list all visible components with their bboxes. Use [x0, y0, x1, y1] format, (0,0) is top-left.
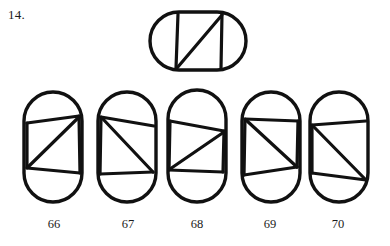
option-choice-69[interactable]	[239, 88, 305, 206]
option-choice-68[interactable]	[164, 88, 230, 206]
option-choice-66[interactable]	[21, 88, 87, 206]
option-choice-67[interactable]	[95, 88, 161, 206]
option-label-66: 66	[32, 218, 76, 231]
target-figure-region	[146, 9, 250, 73]
option-label-67: 67	[106, 218, 150, 231]
option-label-69: 69	[248, 218, 292, 231]
option-choice-70[interactable]	[306, 88, 372, 206]
option-label-68: 68	[175, 218, 219, 231]
option-labels-row: 66 67 68 69 70	[0, 218, 390, 240]
question-sheet: 14. 66 67 68 69 70	[0, 0, 390, 246]
option-label-70: 70	[316, 218, 360, 231]
